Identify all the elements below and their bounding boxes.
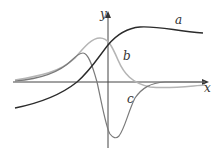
x-axis-label: x [204, 81, 211, 95]
curve-a [15, 27, 203, 108]
curve-c [15, 53, 205, 138]
curve-a-label: a [175, 13, 182, 27]
function-graph-figure: y x a b c [0, 0, 218, 153]
curve-c-label: c [127, 92, 134, 106]
graph-canvas: y x a b c [0, 0, 218, 153]
curve-b [15, 38, 205, 88]
curve-b-label: b [123, 49, 131, 63]
y-axis-label: y [99, 7, 107, 21]
